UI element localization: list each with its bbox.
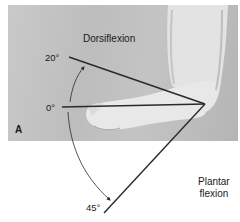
angle-45-label: 45° xyxy=(86,202,100,213)
angle-0-label: 0° xyxy=(46,102,55,113)
plantar-flexion-label: Plantar flexion xyxy=(198,176,230,200)
dorsiflexion-arrow xyxy=(70,67,84,102)
panel-label: A xyxy=(15,124,22,135)
neutral-line xyxy=(62,104,205,107)
dorsiflexion-label: Dorsiflexion xyxy=(83,33,135,44)
plantar-flexion-arrow xyxy=(68,112,110,200)
plantar-flexion-line xyxy=(104,104,205,213)
plantar-flexion-label-line2: flexion xyxy=(198,188,230,200)
dorsiflexion-line xyxy=(69,57,205,104)
ankle-range-of-motion-figure: Dorsiflexion 20° 0° A 45° Plantar flexio… xyxy=(0,0,240,222)
angle-20-label: 20° xyxy=(45,52,59,63)
plantar-flexion-label-line1: Plantar xyxy=(198,176,230,188)
